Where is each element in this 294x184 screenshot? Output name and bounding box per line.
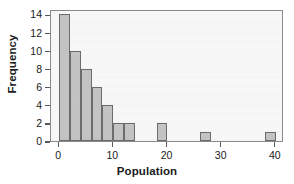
x-tick-mark [112,142,113,147]
y-tick-mark [45,87,50,88]
x-tick-label: 0 [43,149,73,161]
x-axis-title: Population [0,165,294,177]
histogram-bar [81,69,92,141]
y-tick-mark [45,51,50,52]
histogram-bar [70,51,81,141]
histogram-bar [59,14,70,141]
x-tick-mark [220,142,221,147]
plot-area [50,10,283,142]
histogram-bar [200,132,211,141]
x-tick-label: 20 [152,149,182,161]
histogram-bar [113,123,124,141]
y-tick-label: 6 [20,81,42,93]
x-tick-label: 40 [260,149,290,161]
y-tick-label: 12 [20,27,42,39]
y-tick-mark [45,141,50,142]
y-tick-mark [45,15,50,16]
x-tick-label: 10 [97,149,127,161]
histogram-bar [265,132,276,141]
y-tick-mark [45,123,50,124]
y-tick-label: 0 [20,135,42,147]
x-tick-mark [166,142,167,147]
histogram-bar [157,123,168,141]
y-tick-label: 4 [20,99,42,111]
y-tick-mark [45,33,50,34]
y-tick-label: 10 [20,45,42,57]
x-tick-label: 30 [206,149,236,161]
y-tick-label: 14 [20,8,42,20]
bars-layer [51,11,282,141]
y-tick-label: 8 [20,63,42,75]
histogram-bar [102,105,113,141]
histogram-bar [124,123,135,141]
y-tick-mark [45,105,50,106]
x-tick-mark [274,142,275,147]
y-tick-label: 2 [20,117,42,129]
histogram-bar [92,87,103,141]
y-axis-title: Frequency [6,19,18,109]
y-tick-mark [45,69,50,70]
histogram-figure: Frequency Population 02468101214 0102030… [0,0,294,184]
x-tick-mark [58,142,59,147]
